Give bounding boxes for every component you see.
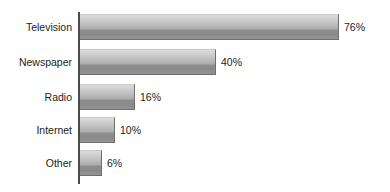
bar-chart: Television 76% Newspaper 40% Radio 16% I…	[0, 0, 390, 192]
category-label-internet: Internet	[0, 117, 72, 143]
bar-fill	[80, 14, 339, 40]
bar-fill	[80, 117, 115, 143]
bar-row: Television 76%	[0, 14, 390, 40]
category-label-radio: Radio	[0, 84, 72, 110]
bar-fill	[80, 84, 135, 110]
bar-newspaper[interactable]	[80, 49, 216, 75]
bar-fill	[80, 49, 216, 75]
bar-fill	[80, 150, 102, 176]
value-label-newspaper: 40%	[221, 49, 242, 75]
category-label-television: Television	[0, 14, 72, 40]
bar-radio[interactable]	[80, 84, 135, 110]
value-label-radio: 16%	[140, 84, 161, 110]
bar-row: Internet 10%	[0, 117, 390, 143]
bar-internet[interactable]	[80, 117, 115, 143]
category-label-newspaper: Newspaper	[0, 49, 72, 75]
bar-row: Radio 16%	[0, 84, 390, 110]
category-label-other: Other	[0, 150, 72, 176]
value-label-other: 6%	[107, 150, 122, 176]
value-label-internet: 10%	[120, 117, 141, 143]
bar-row: Other 6%	[0, 150, 390, 176]
bar-row: Newspaper 40%	[0, 49, 390, 75]
value-label-television: 76%	[344, 14, 365, 40]
bar-television[interactable]	[80, 14, 339, 40]
bar-other[interactable]	[80, 150, 102, 176]
